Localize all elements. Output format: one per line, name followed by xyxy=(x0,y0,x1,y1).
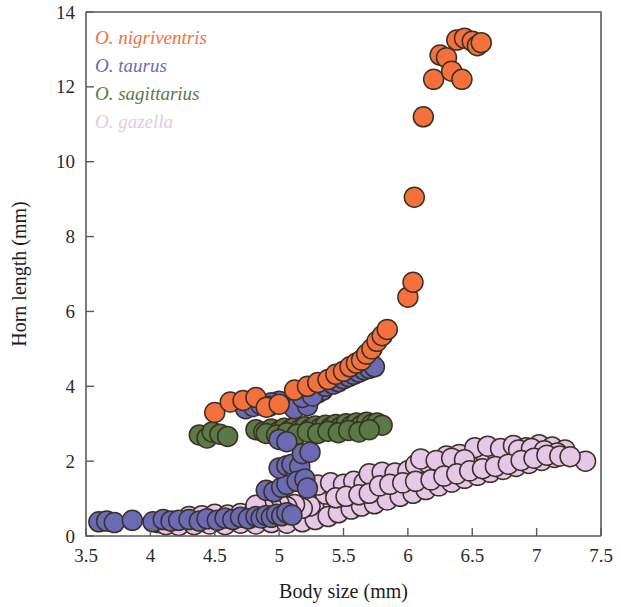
data-point xyxy=(277,432,297,452)
data-point xyxy=(297,478,317,498)
legend: O. nigriventrisO. taurusO. sagittariusO.… xyxy=(95,27,207,132)
data-point xyxy=(403,272,423,292)
data-point xyxy=(104,513,124,533)
y-tick-label: 8 xyxy=(66,226,76,247)
data-markers-layer xyxy=(89,28,596,535)
x-tick-label: 4.5 xyxy=(203,545,227,566)
y-tick-label: 4 xyxy=(66,376,76,397)
data-point xyxy=(413,107,433,127)
x-tick-label: 4 xyxy=(146,545,156,566)
y-axis-title: Horn length (mm) xyxy=(8,201,31,347)
plot-canvas: 024681012143.544.555.566.577.5 O. nigriv… xyxy=(0,0,621,607)
data-point xyxy=(560,447,580,467)
x-tick-label: 3.5 xyxy=(74,545,98,566)
legend-item-o--taurus: O. taurus xyxy=(95,55,167,76)
data-point xyxy=(359,420,379,440)
x-tick-label: 5.5 xyxy=(332,545,356,566)
x-tick-label: 5 xyxy=(274,545,284,566)
data-point xyxy=(377,319,397,339)
x-tick-label: 7 xyxy=(532,545,542,566)
y-tick-label: 6 xyxy=(66,301,76,322)
series-o--nigriventris xyxy=(205,28,492,422)
legend-item-o--nigriventris: O. nigriventris xyxy=(95,27,207,48)
x-axis-title: Body size (mm) xyxy=(279,580,408,603)
data-point xyxy=(122,510,142,530)
x-tick-label: 7.5 xyxy=(589,545,613,566)
y-tick-label: 14 xyxy=(56,2,76,23)
data-point xyxy=(218,426,238,446)
x-tick-label: 6 xyxy=(403,545,413,566)
y-tick-label: 2 xyxy=(66,451,76,472)
legend-item-o--gazella: O. gazella xyxy=(95,111,173,132)
data-point xyxy=(404,187,424,207)
data-point xyxy=(300,442,320,462)
data-point xyxy=(282,505,302,525)
data-point xyxy=(452,69,472,89)
data-point xyxy=(471,33,491,53)
scatter-plot-figure: 024681012143.544.555.566.577.5 O. nigriv… xyxy=(0,0,621,607)
y-tick-label: 0 xyxy=(66,526,76,547)
legend-item-o--sagittarius: O. sagittarius xyxy=(95,83,200,104)
x-tick-label: 6.5 xyxy=(460,545,484,566)
y-tick-label: 10 xyxy=(56,151,75,172)
y-tick-label: 12 xyxy=(56,76,75,97)
data-point xyxy=(424,69,444,89)
data-point xyxy=(269,394,289,414)
